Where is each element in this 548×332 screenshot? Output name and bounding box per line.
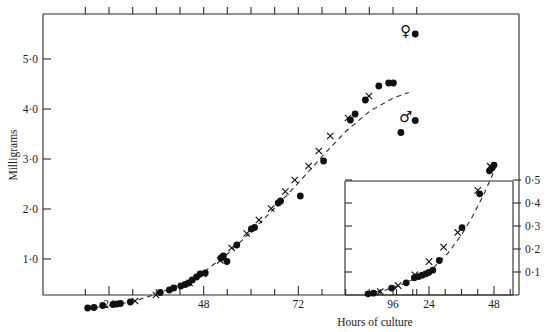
y-tick-label: 3·0 (23, 153, 39, 165)
inset-y-tick-label: 0·2 (525, 243, 541, 255)
inset-plot-frame (345, 181, 513, 295)
growth-curve-figure: 1·02·03·04·05·0 24487296 ♀♂ 0·10·20·30·4… (0, 0, 548, 332)
inset-fitted-curve (367, 164, 497, 294)
main-x-tick-labels: 24487296 (103, 298, 399, 310)
x-tick-label: 96 (387, 298, 399, 310)
y-tick-label: 5·0 (23, 53, 39, 65)
y-axis-title: Milligrams (7, 129, 20, 181)
inset-y-tick-label: 0·5 (525, 174, 541, 186)
inset-right-tick-marks (513, 180, 521, 272)
y-tick-label: 4·0 (23, 103, 39, 115)
female-symbol: ♀ (400, 22, 411, 40)
sex-symbol-annotations: ♀♂ (399, 22, 419, 127)
main-cross-markers (132, 93, 372, 304)
main-y-tick-marks (43, 59, 51, 259)
y-tick-label: 1·0 (23, 253, 39, 265)
main-top-tick-marks (85, 7, 416, 14)
main-fitted-curve (85, 93, 408, 309)
inset-left-tick-marks (345, 180, 352, 272)
inset-axes (345, 181, 513, 295)
main-circle-markers (84, 80, 404, 312)
x-axis-title: Hours of culture (337, 316, 412, 328)
male-symbol: ♂ (399, 108, 412, 126)
main-y-tick-labels: 1·02·03·04·05·0 (23, 53, 39, 265)
x-tick-label: 48 (198, 298, 210, 310)
chart-canvas: 1·02·03·04·05·0 24487296 ♀♂ 0·10·20·30·4… (0, 0, 548, 332)
inset-y-tick-label: 0·3 (525, 220, 541, 232)
inset-circle-markers (365, 162, 498, 298)
inset-y-tick-label: 0·1 (525, 266, 541, 278)
inset-y-tick-label: 0·4 (525, 197, 541, 209)
inset-right-tick-labels: 0·10·20·30·40·5 (525, 174, 541, 278)
inset-x-tick-labels: 2448 (423, 298, 500, 310)
inset-cross-markers (377, 163, 493, 295)
y-tick-label: 2·0 (23, 203, 39, 215)
inset-x-tick-label: 48 (488, 298, 500, 310)
x-tick-label: 72 (293, 298, 305, 310)
inset-x-tick-label: 24 (423, 298, 435, 310)
